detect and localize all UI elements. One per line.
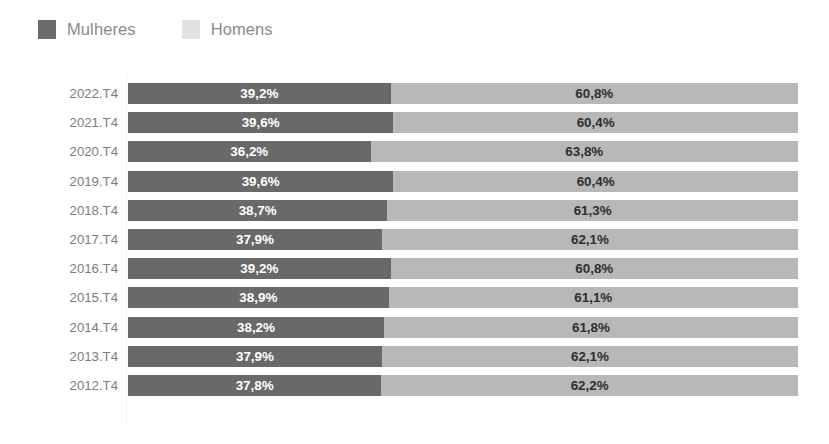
bar-segment-homens: 62,2%: [381, 375, 798, 396]
bar-segment-homens: 60,8%: [391, 258, 798, 279]
bar-segment-mulheres: 38,2%: [128, 317, 384, 338]
bar-track: 38,7%61,3%: [128, 200, 798, 221]
bar-track: 39,2%60,8%: [128, 83, 798, 104]
bar-track: 39,6%60,4%: [128, 112, 798, 133]
bar-track: 39,2%60,8%: [128, 258, 798, 279]
legend-swatch-icon-homens: [182, 20, 200, 39]
bar-track: 38,2%61,8%: [128, 317, 798, 338]
legend-item-mulheres: Mulheres: [38, 18, 136, 40]
bar-track: 37,9%62,1%: [128, 229, 798, 250]
bar-row: 2016.T439,2%60,8%: [0, 258, 829, 287]
category-label: 2013.T4: [0, 346, 118, 367]
stacked-bar-chart: Mulheres Homens 2022.T439,2%60,8%2021.T4…: [0, 0, 829, 444]
bar-segment-homens: 62,1%: [382, 346, 798, 367]
bar-track: 37,9%62,1%: [128, 346, 798, 367]
chart-legend: Mulheres Homens: [38, 18, 273, 40]
bar-segment-mulheres: 38,7%: [128, 200, 387, 221]
category-label: 2022.T4: [0, 83, 118, 104]
bar-segment-mulheres: 37,9%: [128, 229, 382, 250]
category-label: 2015.T4: [0, 287, 118, 308]
bar-segment-homens: 60,8%: [391, 83, 798, 104]
bar-segment-mulheres: 39,6%: [128, 171, 393, 192]
legend-label-homens: Homens: [211, 18, 273, 40]
legend-item-homens: Homens: [182, 18, 273, 40]
category-label: 2020.T4: [0, 141, 118, 162]
bar-row: 2020.T436,2%63,8%: [0, 141, 829, 170]
bar-segment-mulheres: 38,9%: [128, 287, 389, 308]
bar-segment-homens: 60,4%: [393, 171, 798, 192]
bar-track: 39,6%60,4%: [128, 171, 798, 192]
category-label: 2017.T4: [0, 229, 118, 250]
bar-row: 2021.T439,6%60,4%: [0, 112, 829, 141]
category-label: 2018.T4: [0, 200, 118, 221]
bar-row: 2017.T437,9%62,1%: [0, 229, 829, 258]
bar-segment-homens: 61,8%: [384, 317, 798, 338]
bar-row: 2019.T439,6%60,4%: [0, 171, 829, 200]
bar-segment-homens: 61,1%: [389, 287, 798, 308]
bar-segment-homens: 63,8%: [371, 141, 798, 162]
bar-segment-mulheres: 36,2%: [128, 141, 371, 162]
bar-segment-homens: 60,4%: [393, 112, 798, 133]
legend-swatch-icon-mulheres: [38, 20, 56, 39]
bar-row: 2022.T439,2%60,8%: [0, 83, 829, 112]
category-label: 2014.T4: [0, 317, 118, 338]
bar-segment-mulheres: 37,8%: [128, 375, 381, 396]
category-label: 2016.T4: [0, 258, 118, 279]
category-label: 2019.T4: [0, 171, 118, 192]
plot-area: 2022.T439,2%60,8%2021.T439,6%60,4%2020.T…: [0, 74, 829, 424]
bar-segment-mulheres: 39,2%: [128, 258, 391, 279]
bar-segment-mulheres: 39,2%: [128, 83, 391, 104]
bar-row: 2013.T437,9%62,1%: [0, 346, 829, 375]
bar-row: 2015.T438,9%61,1%: [0, 287, 829, 316]
category-label: 2021.T4: [0, 112, 118, 133]
bar-segment-homens: 61,3%: [387, 200, 798, 221]
bar-segment-homens: 62,1%: [382, 229, 798, 250]
bar-segment-mulheres: 37,9%: [128, 346, 382, 367]
bar-segment-mulheres: 39,6%: [128, 112, 393, 133]
bar-row: 2018.T438,7%61,3%: [0, 200, 829, 229]
bar-track: 36,2%63,8%: [128, 141, 798, 162]
bar-rows: 2022.T439,2%60,8%2021.T439,6%60,4%2020.T…: [0, 83, 829, 404]
legend-label-mulheres: Mulheres: [67, 18, 136, 40]
bar-track: 38,9%61,1%: [128, 287, 798, 308]
bar-row: 2012.T437,8%62,2%: [0, 375, 829, 404]
bar-row: 2014.T438,2%61,8%: [0, 317, 829, 346]
bar-track: 37,8%62,2%: [128, 375, 798, 396]
category-label: 2012.T4: [0, 375, 118, 396]
